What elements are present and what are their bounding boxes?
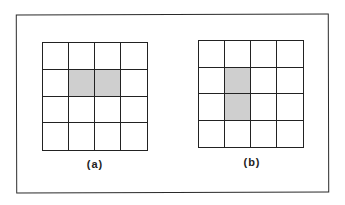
grid-cell [199, 41, 225, 68]
grid-cell [95, 43, 121, 70]
grid-cell [199, 94, 225, 121]
grid-cell [225, 121, 251, 148]
panel-label-b: (b) [243, 156, 260, 168]
grid-cell-shaded [225, 68, 251, 95]
grid-cell [43, 70, 69, 97]
grid-cell [95, 97, 121, 124]
grid-cell [121, 43, 147, 70]
grid-cell [277, 41, 303, 68]
grid-cell-shaded [225, 94, 251, 121]
grid-cell [199, 68, 225, 95]
grid-cell-shaded [95, 70, 121, 97]
panel-label-a: (a) [87, 158, 103, 170]
grid-panel-a [42, 42, 148, 151]
grid-cell [69, 97, 95, 124]
grid-cell-shaded [69, 70, 95, 97]
grid-cell [95, 123, 121, 150]
grid-cell [69, 43, 95, 70]
grid-panel-b [198, 40, 304, 148]
grid-cell [121, 123, 147, 150]
grid-cell [225, 41, 251, 68]
grid-cell [251, 68, 277, 95]
grid-cell [251, 94, 277, 121]
grid-cell [43, 123, 69, 150]
grid-cell [251, 41, 277, 68]
grid-cell [69, 123, 95, 150]
grid-cell [121, 70, 147, 97]
grid-cell [277, 121, 303, 148]
grid-cell [277, 94, 303, 121]
grid-cell [121, 97, 147, 124]
grid-cell [251, 121, 277, 148]
grid-cell [199, 121, 225, 148]
grid-cell [43, 97, 69, 124]
grid-cell [43, 43, 69, 70]
grid-cell [277, 68, 303, 95]
